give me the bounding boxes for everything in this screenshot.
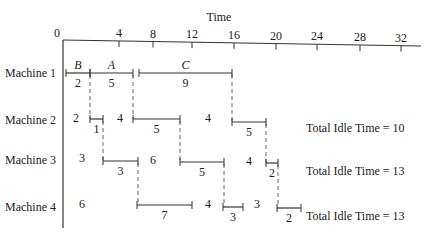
dashed-connectors (90, 75, 278, 208)
job-duration: 9 (183, 76, 189, 90)
idle-time-label: 6 (150, 153, 156, 167)
axis-ticks: 48121620242832 (116, 26, 407, 52)
machine-label: Machine 2 (5, 113, 56, 127)
job-duration: 5 (246, 125, 252, 139)
job-segment: 3 (103, 157, 138, 178)
job-segment: 3 (223, 203, 243, 224)
idle-time-label: 2 (73, 111, 79, 125)
job-segment: A5 (90, 58, 133, 90)
idle-time-label: 4 (246, 154, 252, 168)
job-segment: 5 (133, 115, 180, 136)
idle-totals: Total Idle Time = 10Total Idle Time = 13… (306, 121, 405, 223)
job-duration: 3 (230, 210, 236, 224)
axis-tick-label: 20 (270, 29, 282, 43)
idle-time-label: 3 (79, 151, 85, 165)
axis-tick-label: 8 (150, 27, 156, 41)
job-duration: 5 (109, 76, 115, 90)
axis-origin-label: 0 (54, 26, 60, 40)
idle-time-label: 4 (205, 111, 211, 125)
machine-label: Machine 3 (5, 153, 56, 167)
axis-tick-label: 32 (395, 31, 407, 45)
job-duration: 5 (199, 165, 205, 179)
job-duration: 7 (162, 208, 168, 222)
machine-labels: Machine 1Machine 2Machine 3Machine 4 (5, 66, 56, 214)
idle-time-label: 4 (205, 197, 211, 211)
job-segment: 1 (90, 115, 103, 136)
axis-tick-label: 4 (116, 26, 122, 40)
job-segment: B2 (66, 58, 90, 90)
job-duration: 2 (269, 166, 275, 180)
job-duration: 3 (118, 164, 124, 178)
axis-tick-label: 16 (228, 28, 240, 42)
total-idle-time: Total Idle Time = 10 (306, 121, 405, 135)
gantt-diagram: Time 0 48121620242832 Machine 1Machine 2… (0, 0, 433, 240)
job-duration: 2 (75, 76, 81, 90)
axis-tick-label: 24 (311, 29, 323, 43)
axis-tick-label: 28 (354, 30, 366, 44)
job-segment: C9 (139, 58, 232, 90)
machine-label: Machine 1 (5, 66, 56, 80)
job-segment: 7 (137, 201, 192, 222)
idle-time-label: 6 (79, 197, 85, 211)
total-idle-time: Total Idle Time = 13 (306, 164, 405, 178)
axis-tick-label: 12 (186, 27, 198, 41)
idle-time-label: 3 (254, 197, 260, 211)
total-idle-time: Total Idle Time = 13 (306, 209, 405, 223)
job-segment: 2 (266, 159, 278, 180)
job-duration: 1 (94, 122, 100, 136)
job-name: C (181, 58, 190, 72)
job-duration: 2 (286, 211, 292, 225)
idle-time-label: 4 (117, 111, 123, 125)
machine-label: Machine 4 (5, 200, 56, 214)
job-segment: 5 (232, 118, 266, 139)
job-segment: 5 (180, 158, 224, 179)
job-name: B (74, 58, 82, 72)
job-name: A (107, 58, 116, 72)
axis-title: Time (207, 10, 232, 24)
job-duration: 5 (154, 122, 160, 136)
job-segment: 2 (277, 204, 301, 225)
time-axis (63, 40, 421, 46)
